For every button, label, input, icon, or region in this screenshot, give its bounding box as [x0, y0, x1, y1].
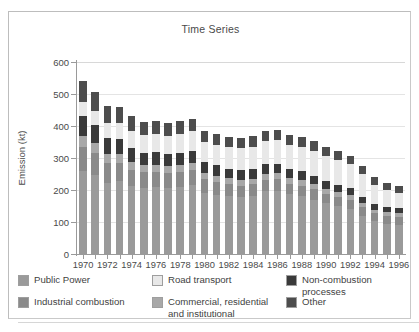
bar-1994[interactable]: [371, 177, 379, 254]
bar-segment: [91, 143, 99, 153]
bar-segment: [104, 106, 112, 123]
bar-1995[interactable]: [383, 183, 391, 254]
bar-segment: [371, 213, 379, 221]
bar-segment: [140, 165, 148, 172]
bar-1980[interactable]: [201, 130, 209, 254]
x-tick-mark: [168, 254, 169, 259]
bar-segment: [79, 147, 87, 172]
x-tick-mark: [132, 254, 133, 259]
bar-1996[interactable]: [395, 186, 403, 254]
bar-1979[interactable]: [189, 119, 197, 254]
x-tick-label: 1976: [146, 260, 167, 270]
bar-1970[interactable]: [79, 81, 87, 254]
y-tick-label: 600: [53, 57, 69, 68]
bar-segment: [383, 183, 391, 190]
bar-1973[interactable]: [116, 107, 124, 254]
bar-segment: [104, 138, 112, 154]
bar-1978[interactable]: [176, 121, 184, 254]
legend-item[interactable]: Non-combustion processes: [286, 274, 418, 297]
bar-1977[interactable]: [164, 123, 172, 254]
bar-1986[interactable]: [274, 130, 282, 254]
bar-segment: [201, 179, 209, 192]
x-tick-label: 1986: [267, 260, 288, 270]
bar-segment: [249, 147, 257, 169]
x-tick-mark: [350, 254, 351, 259]
legend-item[interactable]: Other: [286, 296, 326, 308]
bar-segment: [152, 134, 160, 152]
x-tick-label: 1996: [389, 260, 410, 270]
bar-segment: [116, 107, 124, 123]
legend-label: Road transport: [168, 274, 231, 286]
bar-segment: [310, 200, 318, 254]
bar-segment: [371, 185, 379, 204]
y-tick-label: 200: [53, 185, 69, 196]
bar-1993[interactable]: [359, 166, 367, 254]
x-tick-mark: [375, 254, 376, 259]
bar-1971[interactable]: [91, 92, 99, 254]
bar-segment: [274, 164, 282, 174]
x-tick-label: 1994: [364, 260, 385, 270]
bar-segment: [237, 148, 245, 170]
bar-1976[interactable]: [152, 121, 160, 254]
bar-segment: [176, 187, 184, 254]
x-tick-label: 1988: [291, 260, 312, 270]
bar-1972[interactable]: [104, 106, 112, 254]
legend-label: Other: [302, 296, 326, 308]
bar-1990[interactable]: [322, 147, 330, 254]
bar-segment: [116, 139, 124, 154]
bar-segment: [298, 186, 306, 197]
bar-segment: [347, 164, 355, 188]
bar-segment: [104, 163, 112, 183]
legend-label: Industrial combustion: [34, 296, 125, 308]
bar-segment: [322, 194, 330, 204]
bar-segment: [189, 119, 197, 132]
bar-1974[interactable]: [128, 116, 136, 254]
y-tick-label: 100: [53, 217, 69, 228]
legend-label: Non-combustion processes: [302, 274, 418, 297]
legend-item[interactable]: Industrial combustion: [18, 296, 125, 308]
bar-1987[interactable]: [286, 135, 294, 254]
bar-segment: [189, 170, 197, 185]
y-tick-label: 0: [64, 249, 69, 260]
bar-segment: [359, 174, 367, 196]
bar-segment: [79, 136, 87, 147]
bar-1984[interactable]: [249, 136, 257, 254]
bar-1988[interactable]: [298, 137, 306, 254]
bar-segment: [383, 190, 391, 207]
x-tick-mark: [95, 254, 96, 259]
bar-segment: [274, 191, 282, 254]
legend-item[interactable]: Road transport: [152, 274, 231, 286]
bar-1989[interactable]: [310, 141, 318, 254]
bar-segment: [310, 151, 318, 176]
bar-1992[interactable]: [347, 156, 355, 254]
bar-segment: [91, 153, 99, 175]
bar-segment: [395, 186, 403, 193]
bar-segment: [298, 147, 306, 171]
bar-segment: [262, 164, 270, 174]
bar-segment: [189, 185, 197, 254]
bar-1985[interactable]: [262, 131, 270, 254]
legend-item[interactable]: Public Power: [18, 274, 90, 286]
bar-segment: [152, 187, 160, 254]
x-tick-mark: [180, 254, 181, 259]
legend-item[interactable]: Commercial, residential and institutiona…: [152, 296, 268, 319]
x-tick-mark: [192, 254, 193, 259]
bar-1991[interactable]: [334, 151, 342, 254]
bar-segment: [262, 180, 270, 192]
bar-1981[interactable]: [213, 134, 221, 254]
x-tick-mark: [156, 254, 157, 259]
bar-segment: [201, 162, 209, 173]
bar-segment: [274, 140, 282, 164]
bar-segment: [164, 154, 172, 166]
bar-1982[interactable]: [225, 137, 233, 254]
bar-segment: [128, 148, 136, 162]
bar-segment: [79, 102, 87, 116]
bar-segment: [176, 121, 184, 134]
legend-swatch-icon: [18, 297, 29, 308]
bar-1983[interactable]: [237, 138, 245, 254]
bar-segment: [334, 160, 342, 184]
bar-segment: [334, 197, 342, 206]
bar-segment: [359, 216, 367, 254]
bar-segment: [359, 207, 367, 215]
bar-1975[interactable]: [140, 122, 148, 254]
